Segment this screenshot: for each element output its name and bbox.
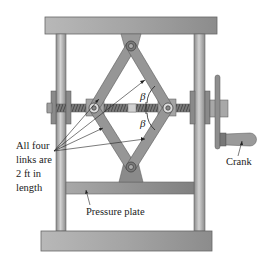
svg-text:All four: All four xyxy=(16,140,50,151)
svg-text:length: length xyxy=(16,182,43,193)
bottom-frame-bar xyxy=(41,231,212,251)
right-post xyxy=(194,34,205,231)
beta-lower-label: β xyxy=(139,117,146,129)
link-lower-right xyxy=(127,105,172,170)
beta-upper-label: β xyxy=(139,90,146,102)
top-frame-bar xyxy=(45,17,217,34)
link-upper-right xyxy=(127,43,172,111)
links-note: All four links are 2 ft in length xyxy=(16,140,52,193)
left-post xyxy=(56,34,66,231)
pressure-plate-label: Pressure plate xyxy=(86,206,145,217)
screw-press-diagram: β β All four links are 2 ft in length Cr… xyxy=(0,0,276,262)
crank-assembly xyxy=(210,75,257,149)
svg-text:links are: links are xyxy=(16,154,52,165)
link-lower-left xyxy=(90,105,135,170)
pressure-plate xyxy=(66,182,194,194)
svg-text:2 ft in: 2 ft in xyxy=(16,168,42,179)
crank-label: Crank xyxy=(226,156,252,167)
